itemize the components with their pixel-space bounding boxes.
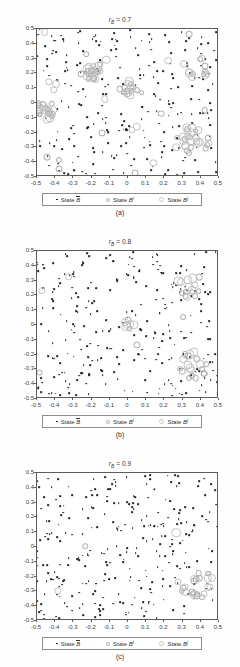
data-point-state-b-bar: [93, 123, 95, 125]
data-point-state-b-bar: [118, 502, 120, 504]
x-tick-label: 0: [125, 179, 128, 187]
data-point-state-b-j: [192, 134, 200, 142]
legend-item[interactable]: State B: [56, 417, 81, 426]
x-axis-tick: [109, 398, 110, 400]
data-point-state-b-bar: [188, 566, 190, 568]
data-point-state-b-bar: [216, 381, 218, 383]
data-point-state-b-bar: [210, 483, 212, 485]
data-point-state-b-bar: [41, 610, 43, 612]
legend-item[interactable]: State Bi: [106, 417, 134, 426]
legend-label: State Bi: [113, 417, 134, 426]
data-point-state-b-bar: [91, 360, 93, 362]
data-point-state-b-bar: [152, 256, 154, 258]
x-tick-label: 0.3: [177, 179, 185, 187]
data-point-state-b-bar: [164, 383, 166, 385]
data-point-state-b-bar: [126, 547, 128, 549]
data-point-state-b-bar: [167, 475, 169, 477]
data-point-state-b-bar: [199, 99, 201, 101]
data-point-state-b-bar: [105, 117, 107, 119]
data-point-state-b-bar: [140, 587, 142, 589]
data-point-state-b-bar: [175, 388, 177, 390]
data-point-state-b-bar: [146, 335, 148, 337]
data-point-state-b-bar: [181, 299, 183, 301]
x-axis-tick: [182, 620, 183, 622]
data-point-state-b-bar: [118, 526, 120, 528]
data-point-state-b-bar: [87, 555, 89, 557]
x-tick-label: -0.3: [67, 401, 77, 409]
data-point-state-b-j: [185, 69, 194, 78]
data-point-state-b-bar: [203, 266, 205, 268]
data-point-state-b-j: [195, 360, 204, 369]
data-point-state-b-bar: [163, 525, 165, 527]
data-point-state-b-bar: [115, 485, 117, 487]
legend-label-prefix: State: [113, 641, 129, 647]
data-point-state-b-bar: [74, 332, 76, 334]
data-point-state-b-bar: [177, 113, 179, 115]
data-point-state-b-bar: [169, 338, 171, 340]
data-point-state-b-bar: [46, 59, 48, 61]
x-tick-label: -0.3: [67, 179, 77, 187]
data-point-state-b-bar: [168, 359, 170, 361]
data-point-state-b-bar: [43, 614, 45, 616]
data-point-state-b-j: [199, 55, 206, 62]
y-tick-label: 0.1: [26, 84, 34, 91]
data-point-state-b-bar: [119, 67, 121, 69]
x-tick-label: 0.5: [214, 623, 222, 631]
legend-item[interactable]: State B: [56, 639, 81, 648]
legend-item[interactable]: State Bi: [106, 195, 134, 204]
data-point-state-b-bar: [118, 593, 120, 595]
x-axis-tick: [72, 176, 73, 178]
x-tick-label: 0.3: [177, 623, 185, 631]
legend-item[interactable]: State Bj: [159, 195, 188, 204]
data-point-state-b-bar: [121, 124, 123, 126]
data-point-state-b-bar: [171, 395, 173, 397]
legend-item[interactable]: State Bi: [106, 639, 134, 648]
data-point-state-b-bar: [96, 526, 98, 528]
data-point-state-b-bar: [133, 509, 135, 511]
data-point-state-b-bar: [113, 260, 115, 262]
data-point-state-b-bar: [170, 481, 172, 483]
data-point-state-b-bar: [128, 503, 130, 505]
data-point-state-b-bar: [210, 338, 212, 340]
x-axis-tick: [36, 620, 37, 622]
data-point-state-b-bar: [87, 127, 89, 129]
data-point-state-b-bar: [141, 106, 143, 108]
legend-item[interactable]: State B: [56, 195, 81, 204]
data-point-state-b-bar: [126, 311, 128, 313]
data-point-state-b-bar: [90, 490, 92, 492]
data-point-state-b-bar: [44, 536, 46, 538]
legend-item[interactable]: State Bj: [159, 417, 188, 426]
data-point-state-b-j: [132, 122, 141, 131]
legend-item[interactable]: State Bj: [159, 639, 188, 648]
data-point-state-b-bar: [207, 397, 209, 398]
data-point-state-b-i: [82, 543, 88, 549]
legend-label-prefix: State: [167, 197, 183, 203]
data-point-state-b-bar: [181, 31, 183, 33]
panel-title: rB = 0.7: [0, 16, 240, 27]
data-point-state-b-bar: [125, 129, 127, 131]
panel-c: rB = 0.90.50.40.30.20.10-0.1-0.2-0.3-0.4…: [0, 444, 240, 666]
data-point-state-b-bar: [155, 96, 157, 98]
data-point-state-b-bar: [186, 269, 188, 271]
data-point-state-b-bar: [70, 85, 72, 87]
data-point-state-b-bar: [60, 541, 62, 543]
data-point-state-b-bar: [182, 540, 184, 542]
x-axis-tick: [109, 620, 110, 622]
data-point-state-b-bar: [151, 592, 153, 594]
data-point-state-b-bar: [37, 565, 39, 567]
data-point-state-b-bar: [48, 165, 50, 167]
data-point-state-b-bar: [135, 553, 137, 555]
x-tick-label: 0.2: [159, 179, 167, 187]
legend-label-superscript: j: [187, 196, 188, 201]
data-point-state-b-bar: [172, 126, 174, 128]
data-point-state-b-bar: [102, 609, 104, 611]
data-point-state-b-bar: [104, 513, 106, 515]
x-tick-label: -0.1: [104, 401, 114, 409]
title-value: = 0.7: [114, 16, 131, 23]
data-point-state-b-bar: [191, 99, 193, 101]
data-point-state-b-bar: [132, 391, 134, 393]
data-point-state-b-bar: [64, 372, 66, 374]
data-point-state-b-bar: [181, 380, 183, 382]
y-tick-label: 0.4: [26, 261, 34, 268]
data-point-state-b-bar: [170, 500, 172, 502]
